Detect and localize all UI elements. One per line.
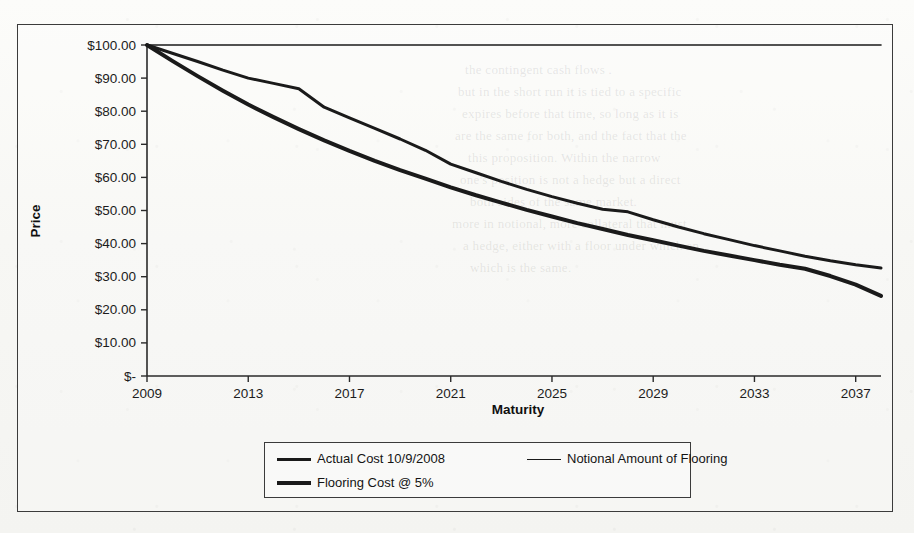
y-tick-label: $50.00 [95, 203, 136, 218]
x-tick-label: 2033 [739, 386, 769, 401]
x-tick-label: 2017 [334, 386, 364, 401]
x-tick-label: 2021 [436, 386, 466, 401]
series-lines [147, 45, 881, 296]
x-tick-label: 2037 [841, 386, 871, 401]
legend-swatch-notional-amount [527, 459, 561, 460]
x-tick-label: 2025 [537, 386, 567, 401]
y-tick-label: $70.00 [95, 137, 136, 152]
legend-label-flooring-cost: Flooring Cost @ 5% [317, 476, 434, 490]
plot-area: $-$10.00$20.00$30.00$40.00$50.00$60.00$7… [18, 25, 894, 513]
chart-frame: $-$10.00$20.00$30.00$40.00$50.00$60.00$7… [17, 24, 893, 512]
y-tick-label: $30.00 [95, 269, 136, 284]
series-line-flooring-cost-5 [147, 45, 881, 296]
y-tick-label: $- [124, 369, 136, 384]
legend-swatch-flooring-cost [277, 481, 311, 485]
y-tick-label: $60.00 [95, 170, 136, 185]
y-axis-title: Price [28, 204, 43, 238]
x-axis: 20092013201720212025202920332037 [132, 376, 881, 401]
y-tick-label: $40.00 [95, 236, 136, 251]
legend-item-flooring-cost: Flooring Cost @ 5% [277, 473, 434, 493]
y-tick-label: $90.00 [95, 71, 136, 86]
x-tick-label: 2029 [638, 386, 668, 401]
legend-item-notional-amount: Notional Amount of Flooring [527, 449, 727, 469]
x-tick-label: 2009 [132, 386, 162, 401]
y-tick-label: $20.00 [95, 302, 136, 317]
series-line-actual-cost-10-9-2008 [147, 45, 881, 268]
y-tick-label: $10.00 [95, 335, 136, 350]
chart-legend: Actual Cost 10/9/2008 Notional Amount of… [264, 442, 691, 498]
chart-svg: $-$10.00$20.00$30.00$40.00$50.00$60.00$7… [18, 25, 894, 513]
x-tick-label: 2013 [233, 386, 263, 401]
legend-label-notional-amount: Notional Amount of Flooring [567, 452, 727, 466]
legend-label-actual-cost: Actual Cost 10/9/2008 [317, 452, 445, 466]
y-tick-label: $80.00 [95, 104, 136, 119]
y-tick-label: $100.00 [87, 38, 136, 53]
x-axis-title: Maturity [492, 402, 545, 417]
legend-swatch-actual-cost [277, 458, 311, 461]
y-axis: $-$10.00$20.00$30.00$40.00$50.00$60.00$7… [87, 38, 147, 384]
legend-item-actual-cost: Actual Cost 10/9/2008 [277, 449, 445, 469]
